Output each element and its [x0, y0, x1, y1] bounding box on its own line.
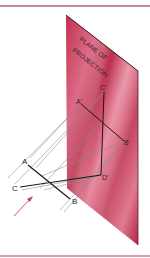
point-label-a-prime: A' [76, 98, 82, 105]
point-label-d-prime: D' [102, 174, 108, 181]
point-label-c: C [12, 184, 18, 193]
projection-diagram: PLANE OF PROJECTION A B C A' B' C' D' [0, 0, 150, 258]
point-label-a: A [22, 157, 28, 166]
point-label-b: B [72, 197, 77, 206]
point-label-c-prime: C' [100, 84, 106, 91]
point-label-b-prime: B' [124, 139, 130, 146]
direction-of-sight-arrow [14, 196, 33, 216]
